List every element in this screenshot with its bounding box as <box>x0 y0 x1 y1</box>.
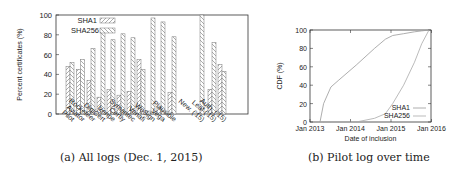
bar-sha256 <box>101 32 105 114</box>
bar-sha256 <box>212 43 216 114</box>
bar-sha256 <box>131 38 135 114</box>
svg-text:60: 60 <box>44 51 52 60</box>
legend-sha256-label: SHA256 <box>384 112 410 119</box>
x-tick-label: Jan 2014 <box>336 125 365 132</box>
x-tick-label: Jan 2015 <box>377 125 406 132</box>
bar-sha256 <box>161 22 165 114</box>
svg-text:20: 20 <box>299 101 307 108</box>
x-tick-label: Jan 2013 <box>296 125 325 132</box>
svg-text:40: 40 <box>44 70 52 79</box>
bar-sha256 <box>121 34 125 114</box>
svg-text:20: 20 <box>44 90 52 99</box>
caption-a: (a) All logs (Dec. 1, 2015) <box>60 151 203 164</box>
x-axis-label: Date of inclusion <box>345 135 397 142</box>
y-axis-label: CDF (%) <box>276 62 284 89</box>
svg-text:100: 100 <box>39 11 52 20</box>
plot-frame <box>310 30 431 122</box>
y-axis-label: Percent certificates (%) <box>16 28 24 100</box>
svg-text:80: 80 <box>299 45 307 52</box>
svg-text:0: 0 <box>48 110 52 119</box>
legend-sha1-label: SHA1 <box>77 16 97 25</box>
bar-sha256 <box>222 71 226 114</box>
legend-sha1-label: SHA1 <box>392 104 410 111</box>
legend-sha256-label: SHA256 <box>71 26 99 35</box>
svg-text:40: 40 <box>299 82 307 89</box>
bar-sha256 <box>151 18 155 114</box>
svg-text:100: 100 <box>295 27 307 34</box>
line-sha1 <box>320 30 429 122</box>
line-sha256 <box>320 30 429 122</box>
bar-sha1 <box>218 65 222 115</box>
bar-sha256 <box>172 37 176 114</box>
svg-text:80: 80 <box>44 31 52 40</box>
caption-b: (b) Pilot log over time <box>308 151 430 164</box>
svg-text:60: 60 <box>299 64 307 71</box>
x-tick-label: Jan 2016 <box>417 125 446 132</box>
